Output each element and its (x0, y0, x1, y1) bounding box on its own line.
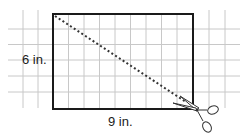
scissors-icon (173, 96, 220, 134)
width-label: 9 in. (108, 114, 133, 129)
height-label: 6 in. (22, 52, 47, 67)
